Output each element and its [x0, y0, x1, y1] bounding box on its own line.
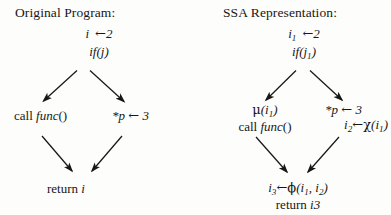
right-store-target: *p	[325, 102, 338, 117]
right-mu-annotation: μ(i1)	[221, 102, 309, 119]
left-store-target: *p	[112, 108, 125, 123]
left-branch-node: if(j)	[62, 45, 136, 59]
chi-symbol-icon: χ	[363, 117, 371, 132]
right-store-node: *p ← 3	[322, 102, 390, 117]
right-branch-close: )	[312, 44, 316, 59]
right-edge-call-to-return	[256, 137, 287, 172]
right-phi-open: (i	[296, 180, 304, 195]
right-diagram-title: SSA Representation:	[223, 6, 337, 21]
right-call-block: μ(i1) call func()	[221, 102, 309, 134]
right-phi-comma: , i	[309, 180, 319, 195]
ssa-figure: Original Program: i←2 if(j) call func() …	[0, 0, 391, 215]
right-phi-close: )	[323, 180, 327, 195]
left-branch-condition: (j)	[96, 44, 108, 59]
right-branch-open: (j	[299, 44, 307, 59]
left-call-node: call func()	[14, 109, 67, 123]
left-entry-value: 2	[106, 26, 113, 41]
left-entry-var: i	[85, 26, 89, 41]
right-chi-close: )	[384, 117, 388, 132]
right-entry-assignment: i1←2	[266, 27, 342, 43]
right-call-function-name: func	[260, 119, 282, 134]
left-edge-entry-to-call	[44, 71, 78, 102]
phi-symbol-icon: ϕ	[287, 180, 296, 195]
right-chi-arrow-icon: ←	[352, 117, 363, 132]
left-store-arrow-icon: ←	[128, 108, 139, 123]
right-chi-annotation: i2←χ(i1)	[322, 117, 390, 134]
left-entry-arrow-icon: ←	[95, 26, 106, 41]
right-entry-var-subscript: 1	[292, 33, 297, 43]
right-phi-arrow-icon: ←	[276, 180, 287, 195]
right-return-value: i3	[310, 197, 320, 212]
right-edge-entry-to-store	[310, 71, 342, 101]
left-return-value: i	[81, 181, 85, 196]
right-phi-assignment: i3←ϕ(i1, i2)	[243, 180, 353, 197]
right-mu-close: )	[273, 102, 277, 117]
right-return-keyword: return	[276, 197, 307, 212]
right-return-node: return i3	[243, 197, 353, 212]
left-store-value: 3	[142, 108, 149, 123]
left-edge-entry-to-store	[90, 71, 124, 102]
right-store-block: *p ← 3 i2←χ(i1)	[322, 102, 390, 134]
right-store-arrow-icon: ←	[341, 102, 352, 117]
right-call-node: call func()	[221, 119, 309, 134]
left-call-parens: ()	[58, 108, 67, 123]
left-edge-store-to-return	[92, 136, 122, 171]
left-return-keyword: return	[47, 181, 78, 196]
right-edge-entry-to-call	[266, 71, 296, 101]
left-entry-assignment: i←2	[62, 27, 136, 41]
left-return-node: return i	[47, 182, 85, 196]
left-call-function-name: func	[36, 108, 58, 123]
right-branch-node: if(j1)	[266, 45, 342, 61]
left-diagram-title: Original Program:	[15, 6, 115, 21]
right-store-value: 3	[355, 102, 362, 117]
right-edge-store-to-return	[308, 137, 339, 172]
right-entry-value: 2	[313, 26, 320, 41]
right-call-parens: ()	[283, 119, 292, 134]
right-entry-arrow-icon: ←	[302, 26, 313, 41]
right-chi-open: (i	[371, 117, 379, 132]
right-call-keyword: call	[238, 119, 257, 134]
right-return-block: i3←ϕ(i1, i2) return i3	[243, 180, 353, 212]
left-store-node: *p ← 3	[112, 109, 149, 123]
right-mu-open: (i	[261, 102, 269, 117]
mu-symbol-icon: μ	[252, 102, 260, 117]
left-edge-call-to-return	[42, 136, 72, 171]
left-call-keyword: call	[14, 108, 33, 123]
